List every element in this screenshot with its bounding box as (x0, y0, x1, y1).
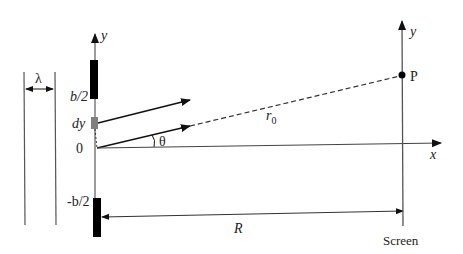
screen-group: y P Screen (383, 21, 419, 248)
wavefronts: λ (24, 71, 56, 225)
diffraction-diagram: λ y b/2 dy 0 -b/2 r0 θ x R y (0, 0, 463, 254)
point-P (399, 72, 406, 79)
distance-label: R (233, 221, 243, 236)
wavelength-label: λ (35, 71, 42, 86)
screen-line (402, 21, 403, 226)
wavefront-line-1 (24, 72, 25, 225)
x-axis-group: x (97, 143, 441, 162)
slit-element-dy (91, 117, 98, 129)
slit-bottom-label: -b/2 (67, 194, 90, 209)
distance-arrow (102, 211, 403, 217)
screen-label: Screen (383, 233, 419, 248)
ray-from-dy (98, 100, 190, 123)
origin-label: 0 (76, 141, 83, 156)
x-axis-label: x (429, 147, 437, 162)
rays: r0 (97, 76, 400, 148)
path-length-label: r0 (266, 108, 276, 126)
point-P-label: P (410, 69, 418, 84)
slit-element-label: dy (72, 116, 86, 131)
slit-y-axis-label: y (99, 28, 108, 43)
slit-bottom-barrier (93, 198, 101, 237)
screen-y-axis-label: y (408, 24, 417, 39)
slit-top-barrier (90, 60, 98, 99)
x-axis (97, 143, 441, 148)
distance-indicator: R (102, 211, 403, 236)
ray-to-P-dashed (190, 76, 400, 126)
angle-arc (152, 135, 155, 147)
wavefront-line-2 (55, 72, 56, 225)
slit-top-label: b/2 (70, 89, 88, 104)
slit-plane: y b/2 dy 0 -b/2 (67, 28, 108, 237)
ray-from-origin (97, 126, 190, 148)
